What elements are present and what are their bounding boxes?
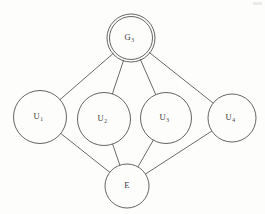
node-label-subscript: 3 <box>166 117 169 123</box>
graph-node-g3[interactable]: G3 <box>107 14 155 62</box>
graph-edge <box>112 144 120 166</box>
paper-smudge <box>253 2 262 5</box>
node-label-subscript: 3 <box>131 37 134 43</box>
node-label-subscript: 4 <box>232 117 235 123</box>
graph-node-e[interactable]: E <box>105 164 149 208</box>
diagram-canvas: G3U1U2U3U4E <box>0 0 265 214</box>
graph-edge <box>112 60 123 94</box>
graph-node-u2[interactable]: U2 <box>78 93 131 146</box>
graph-node-u3[interactable]: U3 <box>141 93 192 144</box>
graph-svg: G3U1U2U3U4E <box>0 0 265 214</box>
node-label-subscript: 2 <box>104 118 107 124</box>
graph-edge <box>140 60 156 96</box>
nodes-layer: G3U1U2U3U4E <box>14 14 257 208</box>
graph-edge <box>138 140 154 168</box>
graph-node-u1[interactable]: U1 <box>14 91 67 144</box>
graph-node-u4[interactable]: U4 <box>208 94 256 142</box>
node-label: E <box>124 180 129 190</box>
node-label-subscript: 1 <box>40 116 43 122</box>
